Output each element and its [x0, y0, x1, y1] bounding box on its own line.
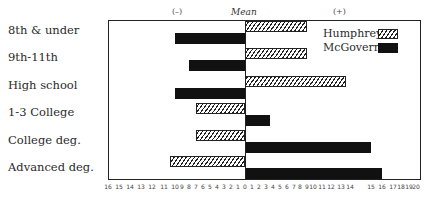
x-tick-label: 4 [215, 183, 219, 190]
x-tick-label: 3 [264, 183, 268, 190]
x-tick-label: 16 [104, 183, 112, 190]
x-tick-label: 11 [318, 183, 326, 190]
x-tick-label: 3 [222, 183, 226, 190]
x-tick-label: 8 [187, 183, 191, 190]
positive-label: (+) [333, 7, 346, 16]
humphrey-bar [196, 130, 245, 141]
hatch-swatch-icon [378, 29, 398, 39]
x-tick-label: 1 [250, 183, 254, 190]
x-tick-label: 15 [367, 183, 375, 190]
x-tick-label: 20 [412, 183, 420, 190]
mcgovern-bar [245, 115, 270, 126]
x-tick-label: 7 [292, 183, 296, 190]
x-tick-label: 13 [337, 183, 345, 190]
mcgovern-bar [189, 60, 245, 71]
x-tick-label: 8 [298, 183, 302, 190]
x-tick-label: 10 [309, 183, 317, 190]
legend-label-mcgovern: McGovern [323, 41, 381, 54]
category-label: Advanced deg. [8, 160, 94, 174]
humphrey-bar [245, 76, 346, 87]
category-label: 1-3 College [8, 105, 74, 119]
x-tick-label: 11 [160, 183, 168, 190]
x-tick-label: 17 [389, 183, 397, 190]
legend-label-humphrey: Humphrey [323, 27, 382, 40]
x-tick-label: 5 [208, 183, 212, 190]
mean-line [245, 20, 246, 180]
mcgovern-bar [175, 88, 245, 99]
x-tick-label: 18 [397, 183, 405, 190]
category-label: 8th & under [8, 23, 79, 37]
solid-swatch-icon [378, 43, 398, 53]
x-tick-label: 12 [327, 183, 335, 190]
x-tick-label: 6 [285, 183, 289, 190]
x-tick-label: 14 [346, 183, 354, 190]
x-tick-label: 10 [171, 183, 179, 190]
x-tick-label: 4 [271, 183, 275, 190]
x-tick-label: 6 [201, 183, 205, 190]
category-label: College deg. [8, 133, 81, 147]
x-tick-label: 12 [148, 183, 156, 190]
x-tick-label: 0 [243, 183, 247, 190]
mcgovern-bar [175, 33, 245, 44]
x-tick-label: 2 [257, 183, 261, 190]
x-tick-label: 1 [236, 183, 240, 190]
humphrey-bar [245, 48, 307, 59]
humphrey-bar [196, 103, 245, 114]
humphrey-bar [170, 156, 246, 167]
x-tick-label: 13 [137, 183, 145, 190]
x-tick-label: 16 [378, 183, 386, 190]
x-tick-label: 5 [278, 183, 282, 190]
mcgovern-bar [245, 142, 371, 153]
negative-label: (–) [172, 7, 182, 16]
x-tick-label: 15 [115, 183, 123, 190]
x-tick-label: 9 [180, 183, 184, 190]
humphrey-bar [245, 21, 307, 32]
x-tick-label: 7 [194, 183, 198, 190]
mcgovern-bar [245, 168, 382, 179]
category-label: High school [8, 78, 77, 92]
category-label: 9th-11th [8, 50, 58, 64]
mean-label: Mean [231, 7, 257, 17]
x-tick-label: 14 [126, 183, 134, 190]
x-tick-label: 2 [229, 183, 233, 190]
